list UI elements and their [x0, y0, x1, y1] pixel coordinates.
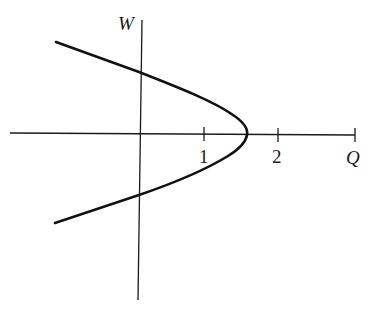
tick-label-2: 2 — [272, 146, 282, 167]
chart-canvas: W 1 2 Q — [0, 0, 371, 322]
tick-label-1: 1 — [199, 146, 209, 167]
q-axis — [10, 133, 355, 135]
w-axis — [138, 20, 142, 300]
w-axis-label: W — [118, 13, 136, 34]
q-axis-label: Q — [346, 147, 360, 168]
parabola-curve — [55, 42, 247, 223]
